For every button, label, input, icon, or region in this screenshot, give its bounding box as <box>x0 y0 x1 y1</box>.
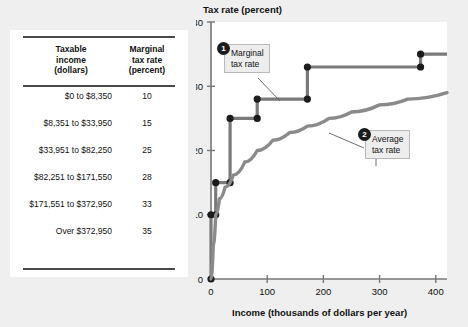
table-row: $171,551 to $372,950 33 <box>23 191 175 218</box>
column-header-marginal-tax-rate: Marginal tax rate (percent) <box>119 38 175 83</box>
series-marker-point <box>417 51 424 58</box>
series-marker-point <box>254 96 261 103</box>
callout-line-2: tax rate <box>231 59 264 70</box>
series-line-marginal-tax-rate <box>211 54 447 279</box>
tax-bracket-table-panel: Taxable income (dollars) Marginal tax ra… <box>10 30 188 277</box>
x-tick-label: 0 <box>208 286 213 297</box>
callout-leader-lines <box>258 78 376 166</box>
cell-income: $82,251 to $171,550 <box>23 164 119 191</box>
cell-rate: 35 <box>119 218 175 245</box>
x-tick-label: 100 <box>259 286 275 297</box>
y-tick-label: 30 <box>196 81 203 92</box>
header-line-2: tax rate <box>119 55 175 66</box>
y-tick-label: 0 <box>198 274 203 285</box>
callout-line-1: Average <box>372 134 404 145</box>
callout-badge-2: 2 <box>358 128 371 141</box>
callout-line-2: tax rate <box>372 145 404 156</box>
cell-income: $0 to $8,350 <box>23 83 119 110</box>
series-marker-point <box>226 115 233 122</box>
series-marker-point <box>304 63 311 70</box>
x-axis-title: Income (thousands of dollars per year) <box>232 307 407 318</box>
callout-badge-1: 1 <box>217 42 230 55</box>
header-line-1: Marginal <box>119 44 175 55</box>
series-marker-point <box>212 179 219 186</box>
callout-line-1: Marginal <box>231 48 264 59</box>
y-tick-label: 10 <box>196 209 203 220</box>
table-row: $33,951 to $82,250 25 <box>23 137 175 164</box>
cell-income: $8,351 to $33,950 <box>23 110 119 137</box>
table-header-row: Taxable income (dollars) Marginal tax ra… <box>23 38 175 83</box>
series-marker-point <box>304 96 311 103</box>
header-line-1: Taxable <box>23 44 119 55</box>
table-body: $0 to $8,350 10 $8,351 to $33,950 15 $33… <box>23 83 175 245</box>
cell-rate: 25 <box>119 137 175 164</box>
table-rule-bottom <box>23 268 175 270</box>
cell-rate: 15 <box>119 110 175 137</box>
header-line-2: income <box>23 55 119 66</box>
y-tick-label: 20 <box>196 145 203 156</box>
x-tick-label: 200 <box>315 286 331 297</box>
x-tick-label: 300 <box>372 286 388 297</box>
table-row: Over $372,950 35 <box>23 218 175 245</box>
series-marker-point <box>254 115 261 122</box>
table-row: $0 to $8,350 10 <box>23 83 175 110</box>
x-tick-label: 400 <box>428 286 444 297</box>
tax-rate-chart-panel: Tax rate (percent) 010203040 01002003004… <box>196 0 468 327</box>
table-row: $82,251 to $171,550 28 <box>23 164 175 191</box>
header-line-3: (dollars) <box>23 65 119 76</box>
callout-marginal-tax-rate: Marginal tax rate <box>224 44 270 73</box>
cell-rate: 33 <box>119 191 175 218</box>
cell-rate: 10 <box>119 83 175 110</box>
y-tick-label: 40 <box>196 17 203 28</box>
cell-income: $171,551 to $372,950 <box>23 191 119 218</box>
cell-income: $33,951 to $82,250 <box>23 137 119 164</box>
callout-average-tax-rate: Average tax rate <box>365 130 410 159</box>
figure-root: Taxable income (dollars) Marginal tax ra… <box>0 0 468 327</box>
table-row: $8,351 to $33,950 15 <box>23 110 175 137</box>
header-line-3: (percent) <box>119 65 175 76</box>
series-marker-point <box>417 63 424 70</box>
column-header-taxable-income: Taxable income (dollars) <box>23 38 119 83</box>
data-series-group <box>207 51 447 283</box>
cell-rate: 28 <box>119 164 175 191</box>
series-line-average-tax-rate <box>211 93 447 279</box>
tax-bracket-table: Taxable income (dollars) Marginal tax ra… <box>23 38 175 245</box>
cell-income: Over $372,950 <box>23 218 119 245</box>
